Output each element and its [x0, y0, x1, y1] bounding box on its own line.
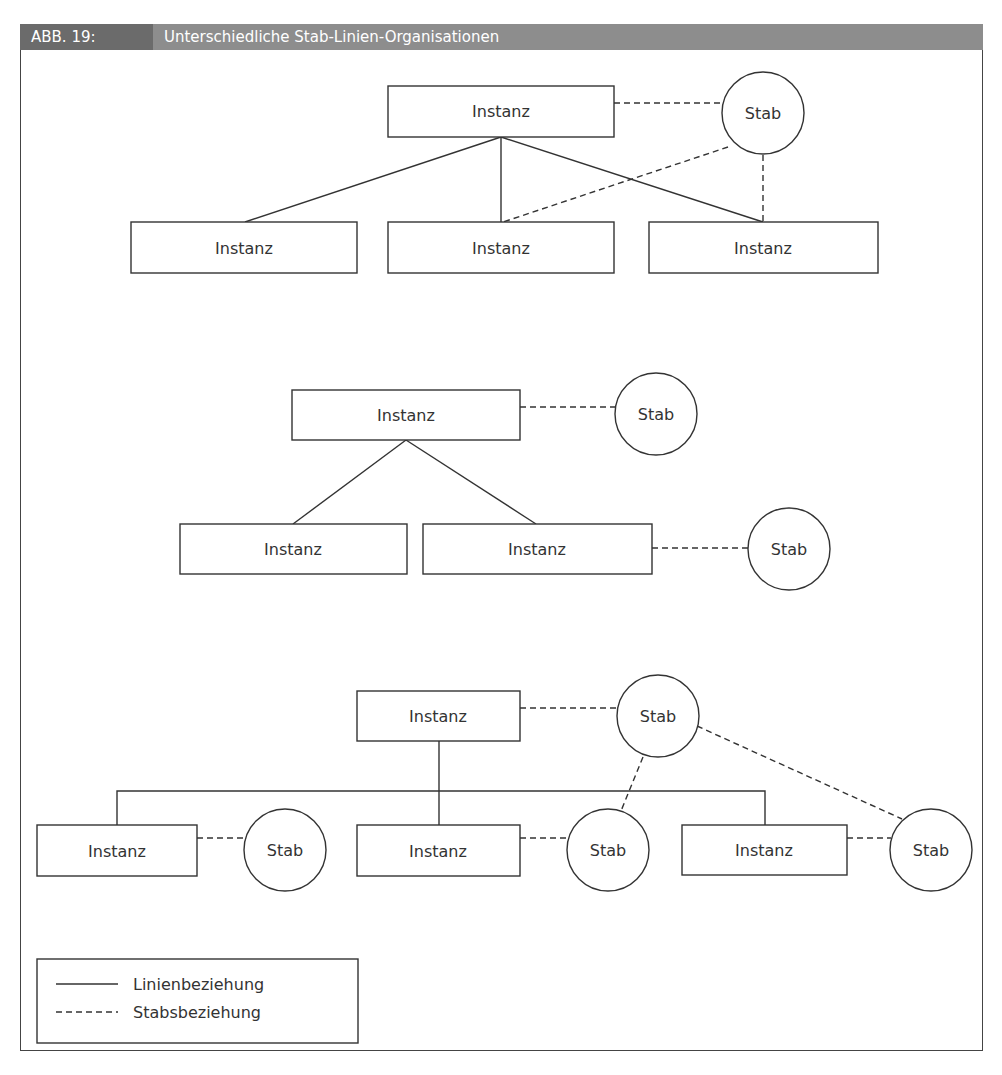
- svg-text:Instanz: Instanz: [735, 841, 793, 860]
- instanz-node: Instanz: [388, 86, 614, 137]
- instanz-node: Instanz: [131, 222, 357, 273]
- instanz-node: Instanz: [423, 524, 652, 574]
- legend-dashed-label: Stabsbeziehung: [133, 1003, 261, 1022]
- stab-node: Stab: [617, 675, 699, 757]
- svg-text:Instanz: Instanz: [264, 540, 322, 559]
- stab-node: Stab: [244, 809, 326, 891]
- instanz-node: Instanz: [292, 390, 520, 440]
- instanz-node: Instanz: [682, 825, 847, 875]
- stab-node: Stab: [567, 809, 649, 891]
- legend-solid-label: Linienbeziehung: [133, 975, 264, 994]
- svg-text:Stab: Stab: [745, 104, 781, 123]
- svg-text:Instanz: Instanz: [377, 406, 435, 425]
- legend: Linienbeziehung Stabsbeziehung: [37, 959, 358, 1043]
- svg-text:Instanz: Instanz: [88, 842, 146, 861]
- instanz-node: Instanz: [357, 825, 520, 876]
- diagram-3: Instanz Stab Instanz Stab Instanz Stab I…: [37, 675, 972, 891]
- line-relation: [406, 440, 536, 524]
- line-relation: [293, 440, 406, 524]
- staff-relation: [503, 147, 728, 222]
- svg-text:Instanz: Instanz: [472, 239, 530, 258]
- svg-text:Instanz: Instanz: [409, 707, 467, 726]
- diagram-1: Instanz Stab Instanz Instanz Instanz: [131, 72, 878, 273]
- stab-node: Stab: [890, 809, 972, 891]
- svg-text:Instanz: Instanz: [734, 239, 792, 258]
- instanz-node: Instanz: [180, 524, 407, 574]
- svg-text:Stab: Stab: [913, 841, 949, 860]
- line-relation: [245, 137, 501, 222]
- staff-relation: [697, 726, 902, 819]
- svg-text:Instanz: Instanz: [472, 102, 530, 121]
- stab-node: Stab: [615, 373, 697, 455]
- svg-text:Stab: Stab: [640, 707, 676, 726]
- line-relation: [117, 791, 765, 825]
- diagram-2: Instanz Stab Instanz Instanz Stab: [180, 373, 830, 590]
- org-diagrams: Instanz Stab Instanz Instanz Instanz Ins…: [0, 0, 1002, 1075]
- stab-node: Stab: [748, 508, 830, 590]
- staff-relation: [621, 757, 643, 811]
- svg-text:Instanz: Instanz: [215, 239, 273, 258]
- svg-text:Stab: Stab: [590, 841, 626, 860]
- svg-text:Instanz: Instanz: [508, 540, 566, 559]
- instanz-node: Instanz: [357, 691, 520, 741]
- svg-text:Instanz: Instanz: [409, 842, 467, 861]
- instanz-node: Instanz: [388, 222, 614, 273]
- svg-text:Stab: Stab: [638, 405, 674, 424]
- instanz-node: Instanz: [37, 825, 197, 876]
- svg-text:Stab: Stab: [771, 540, 807, 559]
- instanz-node: Instanz: [649, 222, 878, 273]
- svg-text:Stab: Stab: [267, 841, 303, 860]
- stab-node: Stab: [722, 72, 804, 154]
